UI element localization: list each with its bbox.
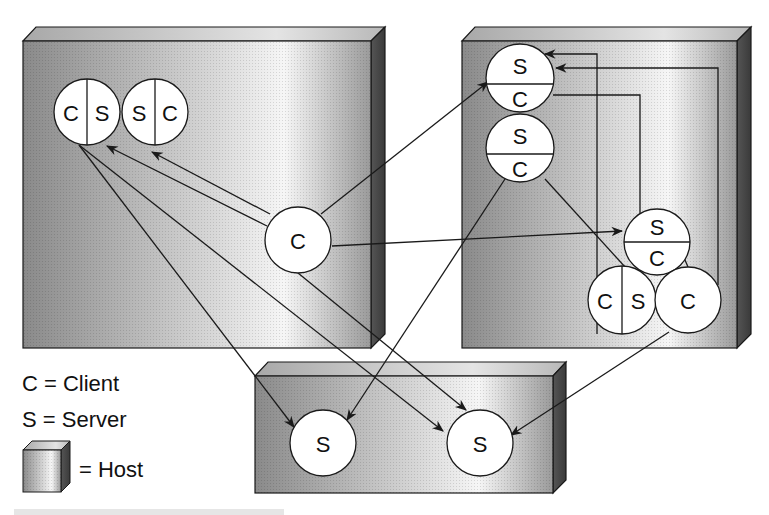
svg-text:S: S (513, 124, 528, 149)
node-left-cs: C S (54, 79, 120, 145)
svg-text:C: C (680, 289, 696, 314)
node-right-mid: S C (624, 209, 690, 275)
node-right-top-1: S C (486, 44, 554, 112)
legend-server: S = Server (22, 407, 127, 432)
svg-text:S: S (95, 101, 110, 126)
svg-text:C: C (597, 289, 613, 314)
node-bottom-server-2: S (447, 410, 513, 476)
svg-text:C: C (162, 101, 178, 126)
node-left-center-client: C (265, 207, 331, 273)
svg-text:C: C (63, 101, 79, 126)
diagram-canvas: C S S C C S C S C S C C S C (0, 0, 769, 515)
svg-text:S: S (513, 54, 528, 79)
node-right-top-2: S C (486, 114, 554, 182)
legend-client: C = Client (22, 371, 119, 396)
host-cube-icon (23, 441, 70, 492)
svg-text:C: C (512, 87, 528, 112)
svg-text:C: C (649, 246, 665, 271)
legend-host: = Host (79, 457, 143, 482)
svg-text:S: S (316, 432, 331, 457)
node-bottom-server-1: S (290, 410, 356, 476)
svg-text:S: S (132, 101, 147, 126)
svg-text:S: S (650, 215, 665, 240)
caption-remnant (14, 509, 284, 515)
node-left-sc: S C (122, 79, 188, 145)
legend: C = Client S = Server = Host (22, 371, 143, 492)
svg-text:C: C (512, 157, 528, 182)
node-right-bottom-cs: C S (588, 266, 656, 334)
svg-text:C: C (290, 229, 306, 254)
svg-text:S: S (473, 432, 488, 457)
svg-text:S: S (631, 289, 646, 314)
node-right-bottom-client: C (655, 267, 721, 333)
